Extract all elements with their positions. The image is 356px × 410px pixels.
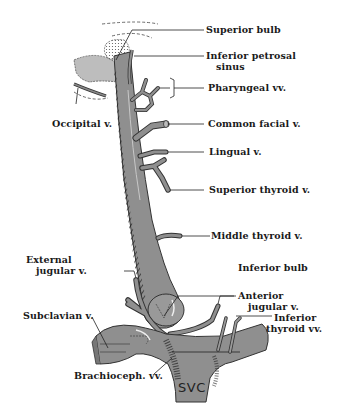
label-inferior-petrosal-line1: Inferior petrosal [206, 50, 296, 61]
occipital-vein [74, 84, 106, 96]
label-lingual-v: Lingual v. [209, 146, 262, 157]
label-anterior-jugular-v: Anterior jugular v. [238, 290, 299, 312]
label-anterior-jugular-line2: jugular v. [238, 301, 299, 312]
jugular-vein-diagram [0, 0, 356, 410]
label-common-facial-v: Common facial v. [208, 118, 301, 129]
label-svc: SVC [178, 380, 206, 395]
label-inferior-thyroid-line2: thyroid vv. [266, 323, 322, 334]
label-middle-thyroid-v: Middle thyroid v. [211, 230, 303, 241]
middle-thyroid-vein [158, 235, 180, 238]
label-inferior-petrosal-line2: sinus [206, 61, 296, 72]
label-inferior-bulb: Inferior bulb [238, 262, 308, 273]
label-external-jugular-line1: External [26, 254, 72, 265]
lingual-vein [140, 152, 166, 156]
label-inferior-thyroid-line1: Inferior [274, 312, 316, 323]
label-external-jugular-v: External jugular v. [26, 254, 87, 276]
label-superior-bulb: Superior bulb [206, 24, 281, 35]
label-brachioceph-vv: Brachioceph. vv. [74, 370, 163, 381]
label-subclavian-v: Subclavian v. [23, 310, 94, 321]
label-occipital-v: Occipital v. [52, 118, 112, 129]
common-facial-vein [136, 121, 169, 139]
label-pharyngeal-vv: Pharyngeal vv. [208, 82, 286, 93]
label-inferior-petrosal-sinus: Inferior petrosal sinus [206, 50, 296, 72]
label-anterior-jugular-line1: Anterior [238, 290, 283, 301]
label-superior-thyroid-v: Superior thyroid v. [209, 184, 310, 195]
label-inferior-thyroid-vv: Inferior thyroid vv. [274, 312, 322, 334]
label-external-jugular-line2: jugular v. [26, 265, 87, 276]
